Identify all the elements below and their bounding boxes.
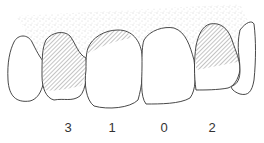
score-label: 2 <box>208 120 215 135</box>
score-label: 1 <box>108 120 115 135</box>
score-label: 0 <box>160 120 167 135</box>
teeth-diagram <box>0 0 264 143</box>
score-label: 3 <box>64 120 71 135</box>
